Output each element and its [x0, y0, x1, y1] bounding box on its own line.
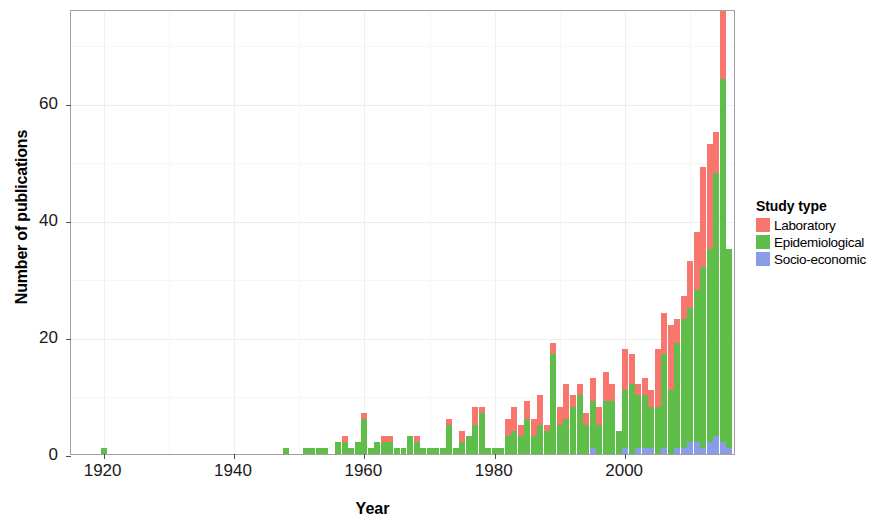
- bar-segment: [609, 401, 615, 454]
- legend-color-swatch: [756, 218, 770, 232]
- bar: [394, 448, 400, 454]
- bar-segment: [407, 436, 413, 454]
- bar-segment: [681, 319, 687, 448]
- bar-segment: [707, 144, 713, 249]
- bar-segment: [713, 436, 719, 454]
- x-axis-tick: [104, 454, 105, 459]
- bar: [485, 448, 491, 454]
- bar-segment: [544, 425, 550, 431]
- bar-segment: [622, 349, 628, 390]
- y-axis-tick-label: 0: [0, 446, 58, 463]
- bar: [453, 448, 459, 454]
- plot-panel: [70, 10, 735, 455]
- bar: [635, 384, 641, 454]
- bar: [309, 448, 315, 454]
- bar-segment: [303, 448, 309, 454]
- legend-item: Epidemiological: [756, 234, 894, 250]
- bar: [596, 407, 602, 454]
- bar-segment: [700, 167, 706, 267]
- bar-segment: [355, 442, 361, 454]
- legend-title: Study type: [756, 198, 894, 214]
- bar-segment: [616, 431, 622, 454]
- bar-segment: [387, 442, 393, 454]
- legend-item: Socio-economic: [756, 251, 894, 267]
- bar: [583, 413, 589, 454]
- x-axis-tick: [364, 454, 365, 459]
- bar-segment: [668, 325, 674, 389]
- bar-segment: [674, 448, 680, 454]
- bar: [655, 349, 661, 454]
- bar-segment: [342, 442, 348, 454]
- bar-segment: [655, 349, 661, 408]
- bar: [361, 413, 367, 454]
- bar-segment: [648, 448, 654, 454]
- bar-segment: [335, 442, 341, 454]
- bar-segment: [577, 395, 583, 454]
- bar-segment: [609, 384, 615, 402]
- bar: [505, 419, 511, 454]
- bar: [498, 448, 504, 454]
- y-axis-tick: [66, 222, 71, 223]
- bar-segment: [420, 448, 426, 454]
- bar-segment: [446, 419, 452, 425]
- bar: [713, 132, 719, 454]
- bar-segment: [648, 390, 654, 408]
- legend-color-swatch: [756, 235, 770, 249]
- bar-segment: [550, 343, 556, 355]
- bar-segment: [381, 436, 387, 442]
- bar-segment: [466, 436, 472, 454]
- bar: [590, 378, 596, 454]
- bar: [687, 261, 693, 454]
- bar-segment: [479, 407, 485, 413]
- bar: [342, 436, 348, 454]
- x-axis-tick-label: 1980: [454, 462, 534, 480]
- bar: [472, 407, 478, 454]
- bar-segment: [603, 372, 609, 401]
- bar-segment: [531, 419, 537, 437]
- bar-segment: [531, 436, 537, 454]
- bar-segment: [459, 431, 465, 443]
- bar-segment: [726, 448, 732, 454]
- bar-segment: [518, 425, 524, 437]
- bar: [537, 395, 543, 454]
- bar: [648, 390, 654, 454]
- bar-segment: [713, 173, 719, 436]
- legend-item-label: Epidemiological: [774, 235, 864, 250]
- legend-item-label: Socio-economic: [774, 252, 866, 267]
- bar-segment: [694, 290, 700, 442]
- bar-segment: [511, 431, 517, 454]
- bar: [681, 296, 687, 454]
- y-axis-tick: [66, 339, 71, 340]
- bar-segment: [596, 425, 602, 454]
- bar: [303, 448, 309, 454]
- bar-segment: [472, 407, 478, 425]
- bar-segment: [511, 407, 517, 430]
- bar-segment: [590, 378, 596, 401]
- bar-segment: [622, 390, 628, 449]
- bar-segment: [577, 384, 583, 396]
- bar-segment: [583, 413, 589, 425]
- bar-segment: [642, 395, 648, 448]
- bar-segment: [322, 448, 328, 454]
- bar-segment: [518, 436, 524, 454]
- bar-segment: [655, 407, 661, 454]
- bar: [674, 319, 680, 454]
- bar: [335, 442, 341, 454]
- bar-segment: [550, 354, 556, 454]
- bar-segment: [590, 401, 596, 448]
- bar-segment: [563, 419, 569, 454]
- bar-segment: [446, 425, 452, 454]
- bar-segment: [661, 354, 667, 448]
- bar-segment: [681, 296, 687, 319]
- legend-items: LaboratoryEpidemiologicalSocio-economic: [756, 217, 894, 267]
- bar-segment: [557, 407, 563, 425]
- bar-segment: [674, 343, 680, 448]
- bar: [466, 436, 472, 454]
- y-axis-tick: [66, 105, 71, 106]
- bar: [616, 431, 622, 454]
- bar: [726, 249, 732, 454]
- bar-segment: [479, 413, 485, 454]
- bar-segment: [668, 390, 674, 454]
- bar-segment: [707, 249, 713, 442]
- bar: [322, 448, 328, 454]
